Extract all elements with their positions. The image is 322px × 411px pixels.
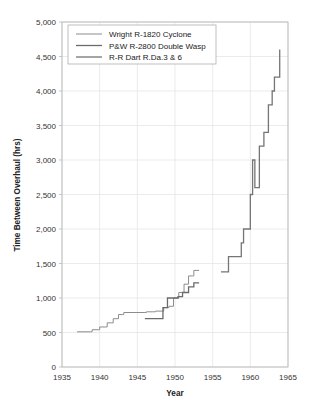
legend-label-1: Wright R-1820 Cyclone [109, 30, 192, 39]
x-tick-label: 1950 [166, 373, 184, 382]
y-tick-label: 3,500 [36, 122, 57, 131]
y-tick-label: 0 [52, 363, 57, 372]
x-tick-label: 1940 [91, 373, 109, 382]
legend-label-2: P&W R-2800 Double Wasp [109, 42, 206, 51]
y-axis-title: Time Between Overhaul (hrs) [13, 138, 22, 251]
y-tick-label: 2,000 [36, 225, 57, 234]
y-tick-label: 4,000 [36, 87, 57, 96]
x-tick-label: 1955 [204, 373, 222, 382]
y-tick-label: 5,000 [36, 18, 57, 27]
chart-container: 05001,0001,5002,0002,5003,0003,5004,0004… [0, 0, 322, 411]
x-tick-label: 1960 [241, 373, 259, 382]
line-chart: 05001,0001,5002,0002,5003,0003,5004,0004… [0, 0, 322, 411]
x-tick-label: 1945 [128, 373, 146, 382]
x-axis-title: Year [166, 389, 184, 398]
y-tick-label: 500 [43, 329, 57, 338]
legend-label-3: R-R Dart R.Da.3 & 6 [109, 53, 182, 62]
y-tick-label: 4,500 [36, 53, 57, 62]
y-tick-label: 1,000 [36, 294, 57, 303]
x-tick-label: 1965 [279, 373, 297, 382]
chart-legend: Wright R-1820 CycloneP&W R-2800 Double W… [68, 25, 216, 64]
x-tick-label: 1935 [53, 373, 71, 382]
y-tick-label: 2,500 [36, 191, 57, 200]
y-tick-label: 1,500 [36, 260, 57, 269]
y-tick-label: 3,000 [36, 156, 57, 165]
